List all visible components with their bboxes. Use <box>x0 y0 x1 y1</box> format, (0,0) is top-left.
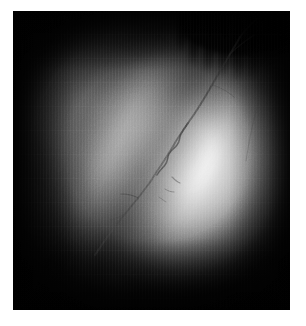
highlight-hotspot <box>13 11 290 310</box>
page-root <box>0 0 306 326</box>
ciliary-processes-icon <box>13 11 290 310</box>
secondary-groove <box>13 11 290 310</box>
image-base-field <box>13 11 290 310</box>
bright-central-body <box>13 11 290 310</box>
photograph-plate <box>13 11 290 310</box>
edge-darkening-overlay <box>13 11 290 310</box>
left-bright-band <box>13 11 290 310</box>
film-grain-overlay <box>13 11 290 310</box>
image-figure <box>0 0 306 326</box>
diagonal-groove <box>13 11 290 310</box>
scan-block-seams <box>13 11 290 310</box>
branching-vessel <box>13 11 290 310</box>
upper-left-lobe <box>13 11 290 310</box>
scan-striping <box>13 11 290 310</box>
vignette-overlay <box>13 11 290 310</box>
